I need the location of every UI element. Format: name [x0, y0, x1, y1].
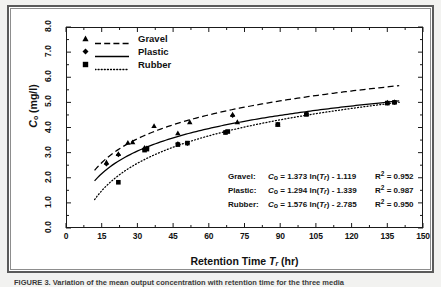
x-tick-label: 75 — [240, 231, 249, 241]
x-tick-label: 60 — [204, 231, 213, 241]
x-tick-label: 0 — [64, 231, 69, 241]
r2-value: = 0.952 — [384, 172, 413, 181]
chart-legend: Gravel Plastic Rubber — [79, 32, 171, 71]
x-tick-label: 105 — [309, 231, 323, 241]
x-tick-label: 90 — [276, 231, 285, 241]
x-tick-label: 45 — [169, 231, 178, 241]
legend-item-rubber: Rubber — [79, 58, 171, 71]
y-axis-symbol: C — [27, 120, 39, 128]
legend-line-dashed — [95, 34, 129, 43]
x-axis-unit: (hr) — [278, 255, 298, 267]
y-tick-label: 0.0 — [43, 215, 53, 239]
chart-svg — [0, 0, 441, 287]
x-axis-title-prefix: Retention Time — [190, 255, 269, 267]
eq-tail: ) - 2.785 — [327, 200, 357, 209]
x-tick-label: 120 — [345, 231, 359, 241]
r2-value: = 0.950 — [384, 200, 413, 209]
legend-label-gravel: Gravel — [138, 33, 168, 44]
legend-line-solid — [95, 47, 129, 56]
y-tick-label: 3.0 — [43, 140, 53, 164]
y-tick-label: 4.0 — [43, 115, 53, 139]
equation-name-rubber: Rubber: — [228, 200, 268, 209]
legend-line-dotted — [95, 60, 129, 69]
equation-row-plastic: Plastic: Co = 1.294 ln(Tr) - 1.339 R2 = … — [228, 184, 427, 198]
figure-container: Co (mg/l) Retention Time Tr (hr) 0153045… — [0, 0, 441, 287]
x-tick-label: 30 — [133, 231, 142, 241]
y-tick-label: 2.0 — [43, 165, 53, 189]
legend-item-plastic: Plastic — [79, 45, 171, 58]
y-tick-label: 8.0 — [43, 14, 53, 38]
equation-r2-plastic: R2 = 0.987 — [375, 184, 427, 195]
eq-tail: ) - 1.339 — [327, 186, 357, 195]
legend-item-gravel: Gravel — [79, 32, 171, 45]
plot-area: Co (mg/l) Retention Time Tr (hr) 0153045… — [0, 0, 441, 287]
y-axis-subscript: o — [32, 116, 39, 120]
r2-value: = 0.987 — [384, 186, 413, 195]
equation-r2-gravel: R2 = 0.952 — [375, 170, 427, 181]
x-tick-label: 15 — [97, 231, 106, 241]
equation-name-plastic: Plastic: — [228, 186, 268, 195]
x-tick-label: 135 — [381, 231, 395, 241]
legend-label-plastic: Plastic — [138, 46, 169, 57]
eq-expr: = 1.576 ln( — [278, 200, 319, 209]
y-tick-label: 5.0 — [43, 89, 53, 113]
equation-body-gravel: Co = 1.373 ln(Tr) - 1.119 — [268, 172, 375, 181]
x-tick-label: 150 — [416, 231, 430, 241]
eq-expr: = 1.294 ln( — [278, 186, 319, 195]
equation-body-rubber: Co = 1.576 ln(Tr) - 2.785 — [268, 200, 375, 209]
square-marker-icon — [79, 61, 92, 68]
legend-label-rubber: Rubber — [138, 59, 171, 70]
diamond-marker-icon — [79, 48, 92, 55]
equation-body-plastic: Co = 1.294 ln(Tr) - 1.339 — [268, 186, 375, 195]
equation-name-gravel: Gravel: — [228, 172, 268, 181]
y-axis-title: Co (mg/l) — [27, 61, 39, 151]
y-tick-label: 6.0 — [43, 64, 53, 88]
y-tick-label: 1.0 — [43, 190, 53, 214]
x-axis-title: Retention Time Tr (hr) — [66, 255, 423, 267]
equation-r2-rubber: R2 = 0.950 — [375, 198, 427, 209]
figure-caption: FIGURE 3. Variation of the mean output c… — [14, 278, 434, 287]
eq-expr: = 1.373 ln( — [278, 172, 319, 181]
y-tick-label: 7.0 — [43, 39, 53, 63]
equation-row-gravel: Gravel: Co = 1.373 ln(Tr) - 1.119 R2 = 0… — [228, 170, 427, 184]
eq-tail: ) - 1.119 — [327, 172, 356, 181]
equation-annotations: Gravel: Co = 1.373 ln(Tr) - 1.119 R2 = 0… — [228, 170, 427, 212]
triangle-marker-icon — [79, 35, 92, 42]
y-axis-unit: (mg/l) — [27, 84, 39, 116]
equation-row-rubber: Rubber: Co = 1.576 ln(Tr) - 2.785 R2 = 0… — [228, 198, 427, 212]
